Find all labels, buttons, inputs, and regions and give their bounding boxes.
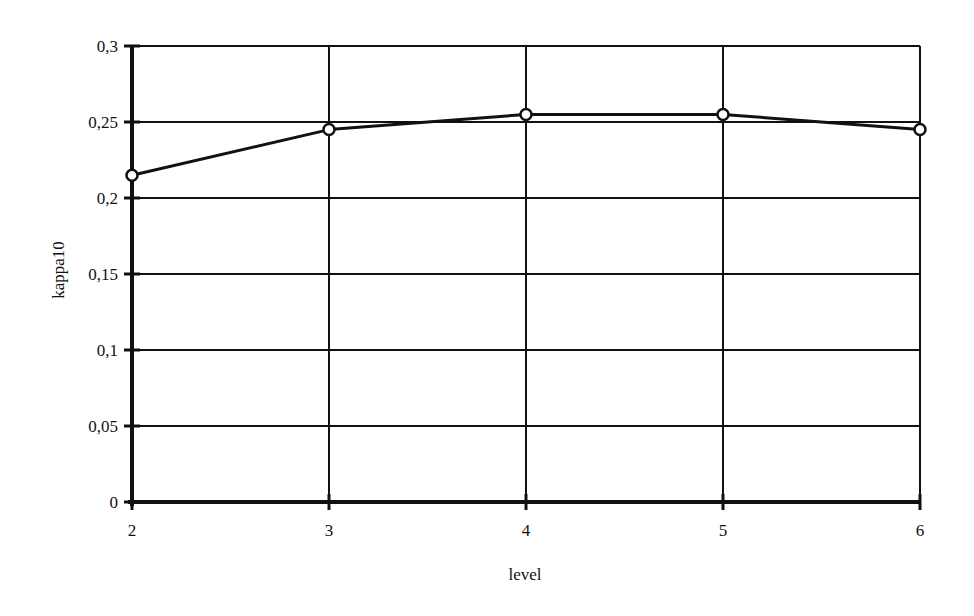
x-tick-label: 6 — [916, 521, 925, 540]
y-tick-label: 0,1 — [97, 341, 118, 360]
x-tick-label: 4 — [522, 521, 531, 540]
x-axis-label: level — [508, 565, 541, 584]
y-tick-label: 0,3 — [97, 37, 118, 56]
data-point-marker — [324, 124, 335, 135]
y-tick-label: 0,2 — [97, 189, 118, 208]
x-tick-label: 5 — [719, 521, 728, 540]
chart-canvas: 00,050,10,150,20,250,3 23456 level kappa… — [0, 0, 974, 616]
y-tick-label: 0 — [110, 493, 119, 512]
data-point-marker — [127, 170, 138, 181]
y-tick-label: 0,15 — [88, 265, 118, 284]
y-tick-label: 0,25 — [88, 113, 118, 132]
y-tick-label: 0,05 — [88, 417, 118, 436]
x-tick-label: 3 — [325, 521, 334, 540]
x-tick-label: 2 — [128, 521, 137, 540]
data-point-marker — [521, 109, 532, 120]
line-chart: 00,050,10,150,20,250,3 23456 level kappa… — [0, 0, 974, 616]
data-point-marker — [718, 109, 729, 120]
y-axis-label: kappa10 — [49, 241, 68, 299]
data-point-marker — [915, 124, 926, 135]
